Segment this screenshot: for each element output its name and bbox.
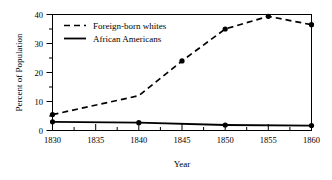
series-foreign-born-whites	[50, 14, 314, 118]
y-axis-title: Percent of Population	[14, 33, 24, 111]
x-axis-title: Year	[174, 159, 191, 169]
data-point	[50, 119, 55, 124]
y-axis-tick-labels: 40 30 20 10 0	[35, 10, 44, 136]
data-point	[309, 123, 314, 128]
data-point	[223, 122, 228, 127]
data-point	[309, 22, 314, 27]
x-tick-label-1850: 1850	[217, 135, 234, 145]
x-tick-label-1860: 1860	[303, 135, 320, 145]
y-tick-label-0: 0	[39, 126, 43, 136]
data-point	[136, 120, 141, 125]
x-tick-label-1835: 1835	[87, 135, 104, 145]
legend-entry-african-americans: African Americans	[64, 34, 162, 44]
legend-label-foreign-born-whites: Foreign-born whites	[93, 21, 167, 31]
x-tick-label-1845: 1845	[174, 135, 191, 145]
plot-frame	[53, 15, 312, 131]
x-tick-label-1840: 1840	[130, 135, 147, 145]
legend-label-african-americans: African Americans	[93, 34, 162, 44]
y-tick-label-20: 20	[35, 68, 44, 78]
series-markers-foreign-born-whites	[50, 14, 314, 118]
y-tick-label-10: 10	[35, 97, 44, 107]
chart-figure: 40 30 20 10 0 1830 1835	[0, 0, 332, 180]
legend-entry-foreign-born-whites: Foreign-born whites	[64, 21, 167, 31]
y-tick-label-30: 30	[35, 39, 44, 49]
x-tick-label-1830: 1830	[44, 135, 61, 145]
y-tick-label-40: 40	[35, 10, 44, 20]
data-point	[50, 112, 55, 117]
data-point	[223, 26, 228, 31]
x-tick-label-1855: 1855	[260, 135, 277, 145]
data-point	[266, 14, 271, 19]
data-point	[179, 58, 184, 63]
chart-legend: Foreign-born whites African Americans	[64, 21, 167, 44]
line-chart-canvas: 40 30 20 10 0 1830 1835	[0, 0, 332, 180]
series-line-foreign-born-whites	[53, 16, 312, 114]
x-axis-tick-labels: 1830 1835 1840 1845 1850 1855 1860	[44, 135, 320, 145]
